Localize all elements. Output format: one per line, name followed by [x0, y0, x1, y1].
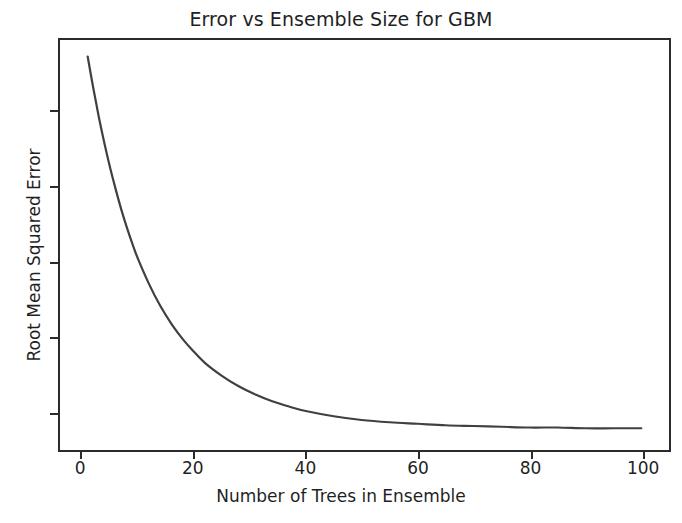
- x-tick-mark: [193, 452, 195, 459]
- y-axis-label: Root Mean Squared Error: [24, 135, 44, 375]
- x-axis-label: Number of Trees in Ensemble: [0, 486, 682, 506]
- y-tick-mark: [50, 413, 58, 415]
- x-tick-label: 40: [275, 458, 335, 478]
- y-tick-mark: [50, 186, 58, 188]
- x-tick-mark: [531, 452, 533, 459]
- x-tick-label: 60: [388, 458, 448, 478]
- x-tick-mark: [418, 452, 420, 459]
- x-tick-mark: [80, 452, 82, 459]
- x-tick-label: 80: [501, 458, 561, 478]
- chart-title: Error vs Ensemble Size for GBM: [0, 8, 682, 30]
- x-tick-mark: [305, 452, 307, 459]
- plot-area: [58, 38, 671, 452]
- x-tick-mark: [643, 452, 645, 459]
- y-tick-mark: [50, 262, 58, 264]
- x-tick-label: 0: [50, 458, 110, 478]
- y-tick-mark: [50, 337, 58, 339]
- x-tick-label: 100: [613, 458, 673, 478]
- x-tick-label: 20: [163, 458, 223, 478]
- line-series-rmse: [60, 40, 669, 450]
- y-tick-mark: [50, 110, 58, 112]
- chart-figure: Error vs Ensemble Size for GBM 12345 020…: [0, 0, 682, 523]
